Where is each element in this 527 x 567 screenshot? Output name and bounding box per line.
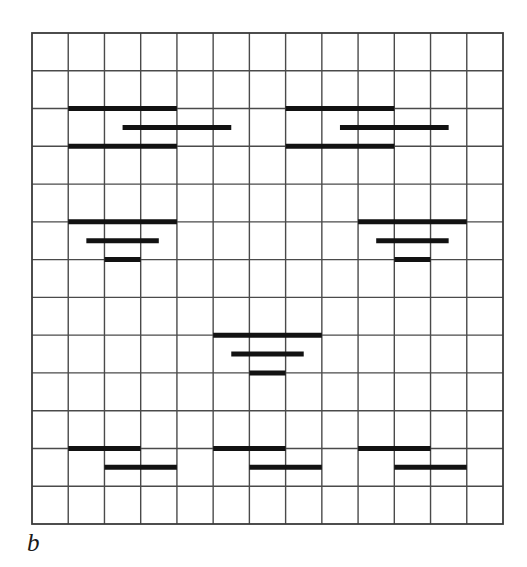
bar-segments [68,109,467,468]
grid-figure-canvas [0,0,527,567]
figure-label: b [27,528,40,558]
figure-container: b [0,0,527,567]
